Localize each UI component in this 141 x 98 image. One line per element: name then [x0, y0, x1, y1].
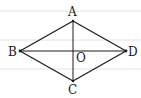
edge-da [73, 21, 126, 51]
label-o: O [76, 51, 86, 65]
rhombus-diagram: A B D O C [0, 0, 141, 98]
vertex-d-dot [125, 50, 128, 53]
vertex-b-dot [19, 50, 22, 53]
edge-bc [20, 51, 73, 81]
label-d: D [128, 45, 138, 59]
vertex-c-dot [72, 80, 74, 82]
edge-ab [20, 21, 73, 51]
label-a: A [67, 5, 77, 19]
label-c: C [68, 83, 77, 97]
label-b: B [8, 45, 17, 59]
vertex-a-dot [72, 20, 74, 22]
